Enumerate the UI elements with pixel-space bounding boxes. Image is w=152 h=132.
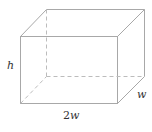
hidden-bottom-left-depth-edge xyxy=(21,77,47,104)
length-coefficient: 2 xyxy=(63,109,70,122)
box-diagram: h 2w w xyxy=(0,0,152,132)
length-label: 2w xyxy=(63,110,79,121)
width-label: w xyxy=(137,89,146,100)
length-variable: w xyxy=(70,109,79,122)
top-right-depth-edge xyxy=(118,10,145,37)
top-left-depth-edge xyxy=(21,10,47,37)
height-label: h xyxy=(7,60,14,71)
front-face xyxy=(21,37,118,104)
